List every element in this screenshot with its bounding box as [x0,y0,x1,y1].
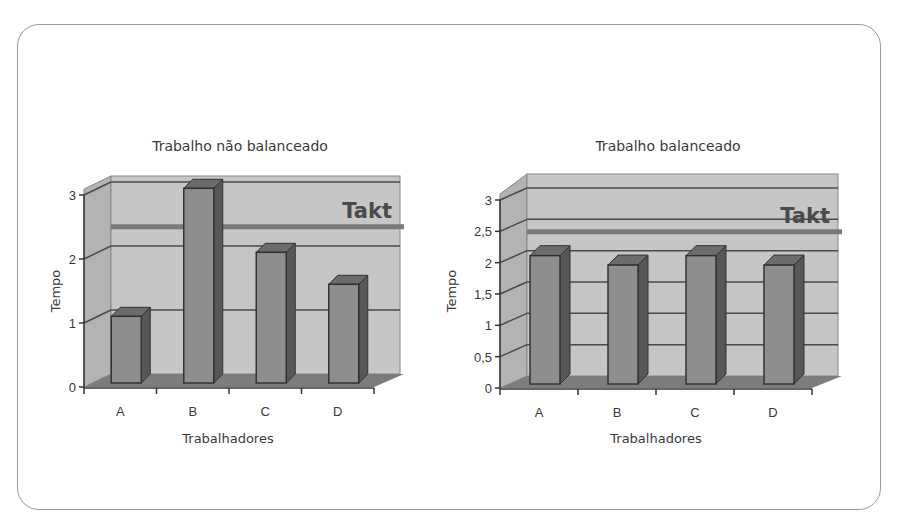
bar-front [329,284,359,383]
y-tick-label: 2,5 [474,224,492,239]
bar-front [111,316,141,383]
y-tick-label: 3 [69,188,76,203]
x-tick-label: A [535,405,544,420]
takt-label: Takt [342,199,392,223]
y-tick-label: 2 [485,256,492,271]
plot-area: Takt0123ABCD [69,176,404,419]
takt-label: Takt [780,204,830,228]
plot-area: Takt00,511,522,53ABCD [474,174,842,420]
x-tick-label: D [768,405,777,420]
y-axis-label: Tempo [48,270,63,314]
y-tick-label: 2 [69,252,76,267]
x-axis-label: Trabalhadores [609,431,702,446]
chart-title: Trabalho balanceado [594,138,740,154]
bar-side [794,255,804,384]
x-tick-label: A [116,404,125,419]
chart-unbalanced: Trabalho não balanceado Takt0123ABCD Tra… [48,138,404,446]
x-tick-label: C [690,405,699,420]
x-tick-label: D [333,404,342,419]
chart-balanced: Trabalho balanceado Takt00,511,522,53ABC… [444,138,842,446]
bar-side [286,243,295,383]
bar-C [256,243,295,383]
bar-A [111,307,150,383]
bar-A [530,246,570,384]
side-wall [84,176,111,387]
y-tick-label: 3 [485,193,492,208]
bar-side [214,179,223,383]
bar-C [686,246,726,384]
charts-canvas: Trabalho não balanceado Takt0123ABCD Tra… [0,0,897,530]
x-tick-label: B [188,404,197,419]
bar-front [184,188,214,383]
y-tick-label: 1 [69,316,76,331]
bar-D [764,255,804,384]
bar-side [638,255,648,384]
y-tick-label: 0 [69,380,76,395]
bar-front [608,265,638,384]
y-tick-label: 0,5 [474,350,492,365]
bar-side [716,246,726,384]
x-tick-label: C [261,404,270,419]
bar-front [530,256,560,384]
bar-front [686,256,716,384]
side-wall [500,174,527,388]
bar-B [184,179,223,383]
y-axis-label: Tempo [444,270,459,314]
y-tick-label: 1,5 [474,287,492,302]
bar-side [560,246,570,384]
bar-side [359,275,368,383]
x-axis-label: Trabalhadores [181,431,274,446]
bar-D [329,275,368,383]
bar-front [256,252,286,383]
bar-side [141,307,150,383]
bar-front [764,265,794,384]
x-tick-label: B [613,405,622,420]
bar-B [608,255,648,384]
chart-title: Trabalho não balanceado [151,138,328,154]
y-tick-label: 0 [485,381,492,396]
y-tick-label: 1 [485,318,492,333]
